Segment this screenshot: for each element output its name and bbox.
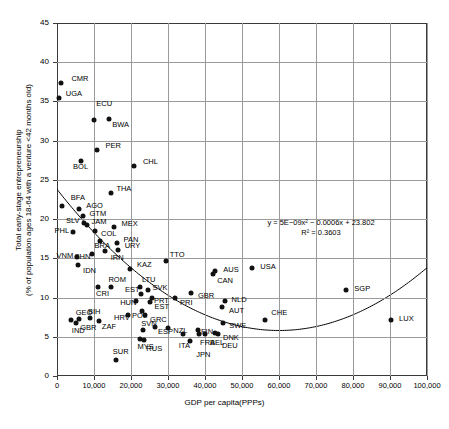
y-tick-label: 0 — [23, 372, 49, 380]
data-point-label: ECU — [96, 100, 112, 108]
data-point-label: JPN — [196, 351, 210, 359]
data-point-label: VNM — [57, 252, 74, 260]
data-point-label: HUN — [120, 299, 136, 307]
data-point — [94, 148, 99, 153]
gridline-horizontal — [57, 337, 427, 338]
data-point — [197, 332, 202, 337]
data-point — [76, 262, 81, 267]
data-point — [115, 248, 120, 253]
data-point — [221, 321, 226, 326]
x-tick-mark — [390, 376, 391, 380]
x-tick-mark — [353, 376, 354, 380]
data-point — [90, 252, 95, 257]
data-point — [87, 315, 92, 320]
data-point — [389, 318, 394, 323]
data-point-label: URY — [125, 242, 141, 250]
gridline-horizontal — [57, 101, 427, 102]
y-tick-mark — [53, 376, 57, 377]
data-point — [166, 326, 171, 331]
gridline-vertical — [131, 23, 132, 376]
data-point — [107, 116, 112, 121]
x-axis-title: GDP per capita(PPPs) — [0, 398, 449, 407]
gridline-vertical — [353, 23, 354, 376]
data-point-label: PHL — [55, 227, 70, 235]
x-tick-mark — [131, 376, 132, 380]
x-tick-mark — [242, 376, 243, 380]
data-point-label: THA — [116, 185, 131, 193]
y-tick-label: 40 — [23, 58, 49, 66]
gridline-vertical — [316, 23, 317, 376]
data-point-label: DEU — [222, 342, 238, 350]
data-point — [131, 163, 136, 168]
data-point — [180, 331, 185, 336]
data-point-label: UGA — [66, 90, 82, 98]
data-point-label: CAN — [217, 277, 233, 285]
data-point — [188, 290, 193, 295]
data-point — [203, 331, 208, 336]
data-point — [163, 258, 168, 263]
x-tick-mark — [168, 376, 169, 380]
data-point-label: RUS — [146, 345, 162, 353]
data-point-label: CHL — [143, 158, 158, 166]
y-tick-mark — [53, 219, 57, 220]
data-point-label: EST — [125, 286, 140, 294]
data-point — [127, 266, 132, 271]
data-point-label: JAM — [92, 218, 107, 226]
data-point-label: IRN — [111, 254, 124, 262]
y-tick-label: 5 — [23, 333, 49, 341]
data-point — [142, 337, 147, 342]
data-point-label: BIH — [88, 308, 101, 316]
data-point-label: TTO — [170, 251, 185, 259]
data-point — [215, 332, 220, 337]
data-point-label: SUR — [113, 348, 129, 356]
data-point-label: CRI — [96, 290, 109, 298]
data-point — [59, 203, 64, 208]
data-point-label: PER — [106, 142, 121, 150]
y-tick-mark — [53, 298, 57, 299]
equation-text: y = 5E−09x² − 0.0006x + 23.802 — [246, 218, 396, 228]
x-tick-mark — [279, 376, 280, 380]
data-point-label: AUT — [229, 307, 244, 315]
y-tick-label: 45 — [23, 19, 49, 27]
data-point — [188, 338, 193, 343]
x-tick-mark — [94, 376, 95, 380]
gridline-vertical — [168, 23, 169, 376]
data-point-label: GBR — [198, 292, 214, 300]
data-point — [141, 327, 146, 332]
x-tick-label: 100,000 — [402, 382, 449, 390]
data-point-label: AUS — [223, 266, 238, 274]
y-tick-mark — [53, 101, 57, 102]
y-tick-mark — [53, 62, 57, 63]
data-point — [74, 254, 79, 259]
data-point — [263, 318, 268, 323]
data-point — [146, 287, 151, 292]
data-point — [80, 213, 85, 218]
data-point — [344, 288, 349, 293]
data-point — [109, 191, 114, 196]
gridline-horizontal — [57, 180, 427, 181]
data-point-label: CHE — [271, 309, 287, 317]
data-point-label: BWA — [112, 121, 129, 129]
data-point — [59, 80, 64, 85]
data-point — [211, 272, 216, 277]
y-axis-title-line2: (% of population ages 18-64 with a ventu… — [24, 70, 34, 310]
gridline-vertical — [427, 23, 428, 376]
data-point — [70, 229, 75, 234]
data-point-label: EST — [155, 303, 170, 311]
x-tick-mark — [427, 376, 428, 380]
data-point-label: GBR — [80, 324, 96, 332]
data-point-label: NLD — [232, 296, 247, 304]
data-point-label: ZAF — [102, 323, 116, 331]
gridline-vertical — [390, 23, 391, 376]
data-point — [113, 357, 118, 362]
data-point — [84, 222, 89, 227]
data-point — [56, 96, 61, 101]
data-point — [153, 324, 158, 329]
data-point — [102, 249, 107, 254]
scatter-chart: 010,00020,00030,00040,00050,00060,00070,… — [0, 0, 449, 429]
data-point-label: USA — [260, 263, 275, 271]
data-point-label: PRI — [180, 299, 193, 307]
x-tick-mark — [205, 376, 206, 380]
gridline-vertical — [205, 23, 206, 376]
data-point — [92, 118, 97, 123]
